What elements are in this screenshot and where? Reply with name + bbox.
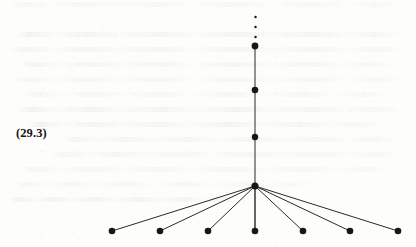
figure-page: (29.3) bbox=[0, 0, 416, 247]
node-leaf-5 bbox=[300, 228, 307, 235]
ellipsis-dot-2 bbox=[254, 26, 257, 29]
node-leaf-2 bbox=[157, 228, 164, 235]
edge-hub-leaf-1 bbox=[112, 186, 255, 231]
vertical-ellipsis bbox=[254, 16, 257, 39]
node-leaf-7 bbox=[395, 228, 402, 235]
leaf-nodes-group bbox=[109, 228, 402, 235]
node-spine-3 bbox=[252, 43, 259, 50]
edge-hub-leaf-5 bbox=[255, 186, 303, 231]
node-leaf-3 bbox=[205, 228, 212, 235]
edge-hub-leaf-6 bbox=[255, 186, 350, 231]
node-spine-1 bbox=[252, 134, 258, 140]
tree-diagram bbox=[0, 0, 416, 247]
edge-hub-leaf-7 bbox=[255, 186, 398, 231]
hub-node bbox=[251, 182, 258, 189]
node-leaf-6 bbox=[347, 228, 354, 235]
node-spine-2 bbox=[252, 87, 259, 94]
ellipsis-dot-3 bbox=[254, 16, 257, 19]
node-leaf-1 bbox=[109, 228, 116, 235]
ellipsis-dot-1 bbox=[254, 36, 257, 39]
edge-hub-leaf-2 bbox=[160, 186, 255, 231]
node-leaf-4 bbox=[252, 228, 259, 235]
edge-hub-leaf-3 bbox=[208, 186, 255, 231]
